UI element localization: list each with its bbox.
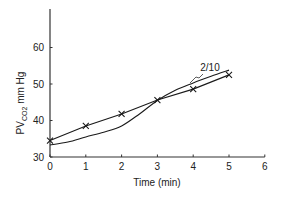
data-point-marker — [83, 123, 89, 129]
x-tick-label: 4 — [190, 161, 196, 172]
y-axis-title-subscript: CO2 — [21, 107, 28, 122]
labels-layer: Time (min) PVCO2 mm Hg 2/10 — [15, 62, 220, 188]
x-tick-label: 1 — [83, 161, 89, 172]
x-tick-label: 5 — [226, 161, 232, 172]
x-axis-title: Time (min) — [133, 177, 180, 188]
series-line-measured — [50, 75, 229, 141]
y-tick-label: 30 — [33, 152, 45, 163]
y-tick-label: 60 — [33, 42, 45, 53]
chart: 012345630405060 Time (min) PVCO2 mm Hg 2… — [0, 0, 284, 197]
y-axis-title: PVCO2 mm Hg — [15, 72, 28, 135]
axes: 012345630405060 — [33, 9, 268, 172]
y-axis-title-main: PV — [15, 121, 26, 135]
x-tick-label: 0 — [47, 161, 53, 172]
series-layer — [47, 70, 232, 145]
data-point-marker — [190, 86, 196, 92]
data-point-marker — [119, 111, 125, 117]
x-tick-label: 2 — [119, 161, 125, 172]
y-axis-title-unit: mm Hg — [15, 72, 26, 107]
y-tick-label: 50 — [33, 79, 45, 90]
x-tick-label: 6 — [262, 161, 268, 172]
y-tick-label: 40 — [33, 115, 45, 126]
x-tick-label: 3 — [155, 161, 161, 172]
data-point-marker — [226, 72, 232, 78]
curve-annotation-label: 2/10 — [200, 62, 220, 73]
